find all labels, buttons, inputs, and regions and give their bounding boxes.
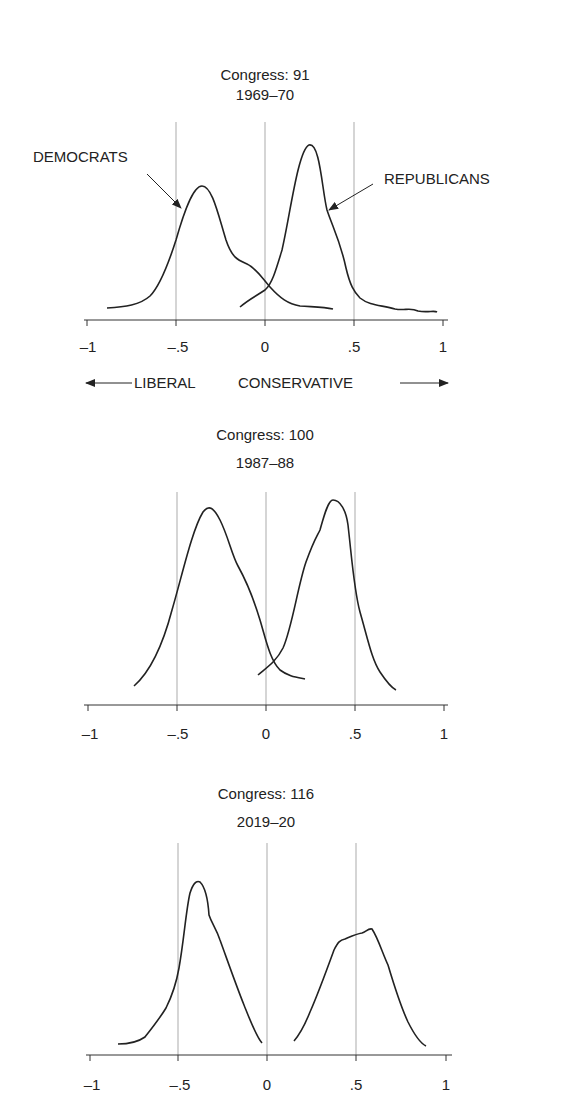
panel-title: Congress: 91: [220, 66, 309, 83]
x-tick-labels: –1 –.5 0 .5 1: [84, 1076, 451, 1093]
panel-congress-100: Congress: 100 1987–88 –1 –.5 0 .5 1: [82, 426, 449, 742]
tick-label: .5: [350, 1076, 363, 1093]
tick-label: 0: [262, 725, 270, 742]
panel-congress-116: Congress: 116 2019–20 –1 –.5 0 .5 1: [84, 785, 452, 1093]
polarization-density-figure: Congress: 91 1969–70 DEMOCRATS REPUBLICA…: [0, 0, 561, 1117]
tick-label: –1: [82, 725, 99, 742]
x-axis: [84, 320, 448, 326]
panel-title: Congress: 100: [216, 426, 314, 443]
democrats-annotation: DEMOCRATS: [33, 148, 181, 208]
panel-congress-91: Congress: 91 1969–70 DEMOCRATS REPUBLICA…: [33, 66, 490, 391]
democrats-label: DEMOCRATS: [33, 148, 128, 165]
tick-label: –1: [80, 338, 97, 355]
tick-label: 0: [263, 1076, 271, 1093]
x-axis: [84, 705, 448, 711]
gridlines: [178, 843, 356, 1055]
panel-subtitle: 1987–88: [236, 454, 294, 471]
x-tick-labels: –1 –.5 0 .5 1: [80, 338, 448, 355]
panel-subtitle: 2019–20: [237, 813, 295, 830]
democrats-curve: [118, 881, 262, 1044]
ideology-caption: LIBERAL CONSERVATIVE: [86, 374, 448, 391]
conservative-label: CONSERVATIVE: [238, 374, 353, 391]
republicans-label: REPUBLICANS: [384, 170, 490, 187]
tick-label: 1: [442, 1076, 450, 1093]
tick-label: –.5: [170, 1076, 191, 1093]
tick-label: .5: [348, 338, 361, 355]
democrats-curve: [134, 508, 305, 686]
tick-label: 1: [440, 725, 448, 742]
republicans-arrow: [329, 184, 373, 210]
tick-label: .5: [349, 725, 362, 742]
liberal-label: LIBERAL: [134, 374, 196, 391]
x-tick-labels: –1 –.5 0 .5 1: [82, 725, 449, 742]
x-axis: [86, 1055, 452, 1061]
tick-label: –1: [84, 1076, 101, 1093]
tick-label: –.5: [168, 725, 189, 742]
tick-label: –.5: [168, 338, 189, 355]
republicans-curve: [294, 929, 426, 1046]
panel-title: Congress: 116: [218, 785, 314, 802]
tick-label: 1: [439, 338, 447, 355]
gridlines: [177, 492, 355, 705]
democrats-curve: [107, 186, 333, 309]
republicans-annotation: REPUBLICANS: [329, 170, 490, 210]
republicans-curve: [258, 500, 396, 690]
tick-label: 0: [261, 338, 269, 355]
panel-subtitle: 1969–70: [236, 86, 294, 103]
